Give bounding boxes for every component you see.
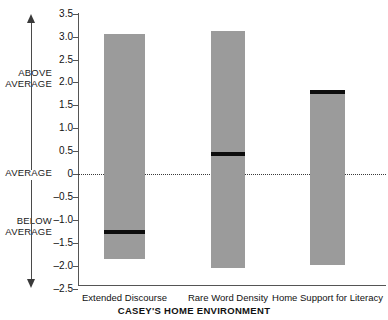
y-tick-mark <box>73 60 78 61</box>
down-arrow-shaft <box>31 180 32 280</box>
y-tick-label: 2.5 <box>33 55 73 65</box>
y-tick-label: –1.5 <box>33 238 73 248</box>
y-tick-mark <box>73 151 78 152</box>
y-tick-mark <box>73 197 78 198</box>
x-axis-title: CASEY'S HOME ENVIRONMENT <box>0 305 388 316</box>
up-arrow-shaft <box>31 22 32 170</box>
y-tick-mark <box>73 220 78 221</box>
score-marker <box>310 90 345 94</box>
y-tick-mark <box>73 243 78 244</box>
category-label: Home Support for Literacy <box>253 292 388 303</box>
y-tick-mark <box>73 82 78 83</box>
y-tick-mark <box>73 266 78 267</box>
y-tick-label: 0.5 <box>33 146 73 156</box>
y-tick-label: 2.0 <box>33 77 73 87</box>
y-tick-label: –0.5 <box>33 192 73 202</box>
y-tick-mark <box>73 14 78 15</box>
score-marker <box>211 152 245 156</box>
y-tick-label: 1.0 <box>33 123 73 133</box>
y-tick-mark <box>73 105 78 106</box>
y-tick-mark <box>73 37 78 38</box>
y-tick-mark <box>73 289 78 290</box>
y-tick-label: 1.5 <box>33 100 73 110</box>
range-bar <box>211 31 245 268</box>
y-tick-label: –2.0 <box>33 261 73 271</box>
score-marker <box>104 230 145 234</box>
y-tick-label: 3.5 <box>33 9 73 19</box>
chart-container: ABOVE AVERAGE AVERAGE BELOW AVERAGE 3.53… <box>0 0 388 320</box>
x-axis-line <box>78 285 386 286</box>
y-axis-line <box>78 13 79 285</box>
y-tick-label: 3.0 <box>33 32 73 42</box>
range-bar <box>310 90 345 264</box>
y-tick-label: –1.0 <box>33 215 73 225</box>
y-tick-label: 0 <box>33 169 73 179</box>
range-bar <box>104 34 145 258</box>
y-tick-mark <box>73 128 78 129</box>
